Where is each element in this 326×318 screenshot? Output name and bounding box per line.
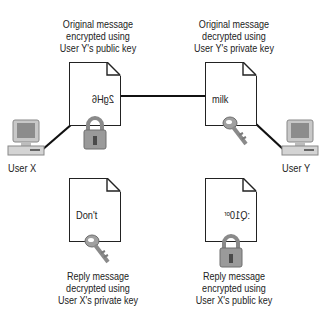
page-fold-icon	[106, 178, 121, 192]
caption-line: encrypted using	[189, 282, 278, 294]
caption-top-left: Original message encrypted using User Y'…	[55, 18, 141, 54]
caption-line: Reply message	[189, 270, 278, 282]
page-fold-icon	[106, 62, 121, 76]
caption-top-right: Original message decrypted using User Y'…	[189, 18, 278, 54]
user-x-label: User X	[8, 162, 36, 174]
user-y-label: User Y	[282, 162, 310, 174]
doc-line: Don't	[76, 209, 118, 221]
key-icon	[220, 114, 250, 148]
caption-line: Original message	[55, 18, 141, 30]
padlock-icon	[218, 234, 244, 268]
caption-line: encrypted using	[55, 30, 141, 42]
page-fold-icon	[242, 62, 257, 76]
doc-line: milk	[212, 93, 245, 105]
doc-line: :Q10ᵒʳ	[212, 209, 250, 221]
computer-user-x-icon	[6, 118, 46, 158]
caption-line: Reply message	[53, 270, 142, 282]
caption-bottom-left: Reply message decrypted using User X's p…	[53, 270, 142, 306]
caption-line: decrypted using	[189, 30, 278, 42]
computer-user-y-icon	[280, 118, 320, 158]
caption-line: User Y's public key	[55, 42, 141, 54]
caption-line: User X's private key	[53, 294, 142, 306]
caption-line: User Y's private key	[189, 42, 278, 54]
caption-line: User X's public key	[189, 294, 278, 306]
page-fold-icon	[242, 178, 257, 192]
caption-bottom-right: Reply message encrypted using User X's p…	[189, 270, 278, 306]
key-icon	[82, 232, 112, 266]
doc-line: 2gH6	[85, 93, 114, 105]
caption-line: Original message	[189, 18, 278, 30]
caption-line: decrypted using	[53, 282, 142, 294]
padlock-icon	[82, 116, 108, 150]
